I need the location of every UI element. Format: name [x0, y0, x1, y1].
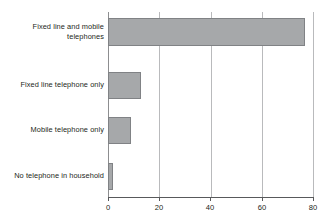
category-label-fixed-line-and-mobile-telephones: Fixed line and mobile telephones: [0, 22, 104, 41]
horizontal-bar-chart: Fixed line and mobile telephones Fixed l…: [0, 0, 328, 224]
x-axis-line: [108, 197, 314, 198]
xtick-label-20: 20: [155, 203, 163, 213]
xtick-label-80: 80: [309, 203, 317, 213]
xtick-mark-0: [108, 197, 109, 201]
bar-no-telephone-in-household: [108, 163, 113, 190]
gridline-80: [313, 12, 314, 197]
category-label-no-telephone-in-household: No telephone in household: [0, 171, 104, 181]
bar-fixed-line-and-mobile-telephones: [108, 18, 305, 46]
xtick-label-40: 40: [206, 203, 214, 213]
category-label-mobile-telephone-only: Mobile telephone only: [0, 125, 104, 135]
xtick-mark-20: [159, 197, 160, 201]
category-label-fixed-line-telephone-only: Fixed line telephone only: [0, 80, 104, 90]
xtick-label-0: 0: [106, 203, 110, 213]
xtick-label-60: 60: [258, 203, 266, 213]
plot-area: [108, 12, 313, 197]
xtick-mark-40: [210, 197, 211, 201]
bar-fixed-line-telephone-only: [108, 72, 141, 99]
bar-mobile-telephone-only: [108, 117, 131, 144]
xtick-mark-80: [313, 197, 314, 201]
xtick-mark-60: [262, 197, 263, 201]
